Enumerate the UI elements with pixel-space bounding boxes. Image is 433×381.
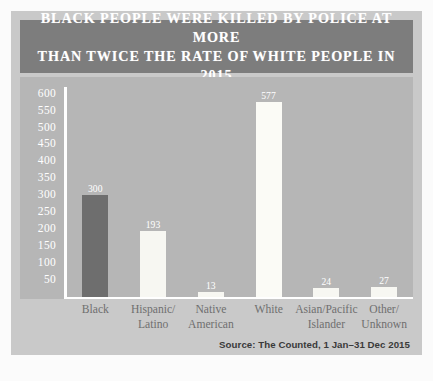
x-axis-category-labels: BlackHispanic/ LatinoNative AmericanWhit… — [67, 303, 414, 337]
x-axis-label: Native American — [188, 303, 234, 332]
bar-slot: 27 — [355, 88, 413, 297]
y-axis-tick-600: 600 — [38, 88, 56, 100]
y-axis-tick-labels: 50100150200250300350400450500550600 — [20, 77, 62, 299]
bar[interactable]: 193 — [140, 231, 166, 296]
y-axis-tick-550: 550 — [38, 105, 56, 117]
y-axis-tick-300: 300 — [38, 189, 56, 201]
y-axis-tick-450: 450 — [38, 139, 56, 151]
bar-slot: 24 — [298, 88, 356, 297]
x-axis-label: Hispanic/ Latino — [131, 303, 175, 332]
bar-value-label: 300 — [88, 184, 103, 194]
x-axis-label: Other/ Unknown — [361, 303, 407, 332]
bar-value-label: 24 — [321, 277, 331, 287]
x-axis-label: Black — [82, 303, 109, 318]
y-axis-tick-250: 250 — [38, 206, 56, 218]
bar-value-label: 13 — [206, 281, 216, 291]
bar-value-label: 193 — [146, 220, 161, 230]
bar-slot: 577 — [240, 88, 298, 297]
y-axis-tick-150: 150 — [38, 240, 56, 252]
bar-value-label: 27 — [379, 276, 389, 286]
y-axis-tick-200: 200 — [38, 223, 56, 235]
x-axis-label: White — [254, 303, 282, 318]
x-axis-label: Asian/Pacific Islander — [295, 303, 357, 332]
chart-card: BLACK PEOPLE WERE KILLED BY POLICE AT MO… — [11, 11, 422, 355]
y-axis-tick-500: 500 — [38, 122, 56, 134]
bar[interactable]: 577 — [256, 102, 282, 297]
chart-figure: BLACK PEOPLE WERE KILLED BY POLICE AT MO… — [0, 0, 433, 381]
y-axis-tick-50: 50 — [44, 274, 56, 286]
bar[interactable]: 13 — [198, 292, 224, 296]
bar[interactable]: 24 — [313, 288, 339, 296]
bar-series: 300193135772427 — [67, 88, 414, 297]
chart-title: BLACK PEOPLE WERE KILLED BY POLICE AT MO… — [20, 9, 413, 85]
chart-title-banner: BLACK PEOPLE WERE KILLED BY POLICE AT MO… — [20, 20, 413, 73]
bar-slot: 13 — [182, 88, 240, 297]
bar[interactable]: 300 — [82, 195, 108, 296]
source-note: Source: The Counted, 1 Jan–31 Dec 2015 — [219, 339, 410, 351]
bar-value-label: 577 — [261, 91, 276, 101]
bar-slot: 193 — [124, 88, 182, 297]
y-axis-tick-350: 350 — [38, 172, 56, 184]
bar-slot: 300 — [67, 88, 125, 297]
plot-area: 50100150200250300350400450500550600 3001… — [20, 77, 413, 299]
y-axis-tick-100: 100 — [38, 257, 56, 269]
bar[interactable]: 27 — [371, 287, 397, 296]
y-axis-tick-400: 400 — [38, 156, 56, 168]
x-axis-line — [64, 297, 413, 300]
